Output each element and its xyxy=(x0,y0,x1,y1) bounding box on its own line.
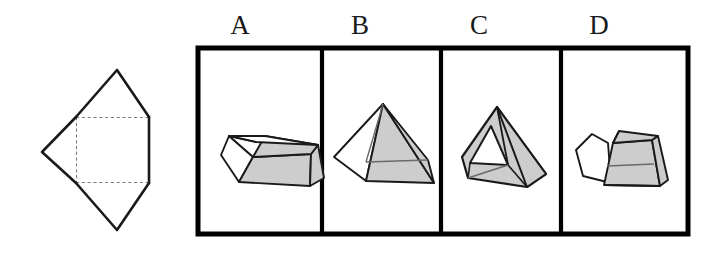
option-d-shape[interactable] xyxy=(576,131,668,186)
option-label-a: A xyxy=(220,12,260,39)
net-fold-lines xyxy=(76,117,148,183)
unfolded-net xyxy=(42,70,149,230)
net-flap-left xyxy=(42,117,76,183)
option-a-shape[interactable] xyxy=(221,136,324,186)
net-flap-bottom xyxy=(76,183,149,230)
net-flap-top xyxy=(76,70,149,117)
option-label-d: D xyxy=(579,12,619,39)
figure-canvas: A B C D xyxy=(0,0,710,256)
option-d-bottom-edge xyxy=(604,185,660,186)
option-label-b: B xyxy=(340,12,380,39)
option-d-front-face xyxy=(604,140,660,186)
option-label-c: C xyxy=(459,12,499,39)
